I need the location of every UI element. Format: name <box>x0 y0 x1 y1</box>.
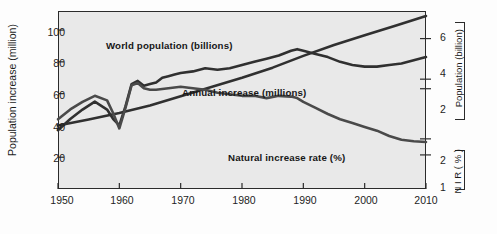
series-label-annual-increase: Annual increase (millions) <box>182 87 306 98</box>
y-left-tick-80: 80 <box>25 57 65 69</box>
chart-figure: Population increase (million) 100 80 60 … <box>0 0 497 234</box>
x-tick-2000: 2000 <box>344 194 388 206</box>
x-tick-2010: 2010 <box>404 194 448 206</box>
y-left-tick-40: 40 <box>25 121 65 133</box>
y-left-tick-100: 100 <box>25 26 65 38</box>
nir-bracket-units: ( % ) <box>452 149 463 169</box>
y-axis-left-title: Population increase (million) <box>6 5 18 175</box>
y-left-tick-60: 60 <box>25 89 65 101</box>
x-tick-1950: 1950 <box>40 194 84 206</box>
nir-bracket-label: N I R ( % ) <box>453 128 464 214</box>
series-label-world-population: World population (billions) <box>106 40 233 51</box>
x-tick-1970: 1970 <box>161 194 205 206</box>
population-bracket-text: Population <box>453 62 464 107</box>
y-left-tick-20: 20 <box>25 152 65 164</box>
population-bracket-units: (billion) <box>453 29 464 60</box>
x-tick-1980: 1980 <box>222 194 266 206</box>
x-tick-1960: 1960 <box>100 194 144 206</box>
population-bracket-label: Population (billion) <box>454 13 465 123</box>
nir-bracket-text: N I R <box>452 172 463 194</box>
series-label-natural-increase-rate: Natural increase rate (%) <box>228 152 345 163</box>
x-tick-1990: 1990 <box>283 194 327 206</box>
